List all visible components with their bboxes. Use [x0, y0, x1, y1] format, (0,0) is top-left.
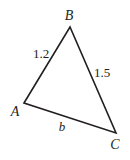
side-label-ab: 1.2	[33, 46, 49, 61]
side-label-bc: 1.5	[94, 65, 110, 80]
triangle-diagram: A B C 1.2 1.5 b	[0, 0, 130, 160]
vertex-label-c: C	[110, 137, 120, 152]
vertex-label-b: B	[65, 8, 74, 23]
triangle-abc	[24, 27, 116, 133]
vertex-label-a: A	[10, 104, 20, 119]
side-label-ac: b	[59, 119, 66, 134]
